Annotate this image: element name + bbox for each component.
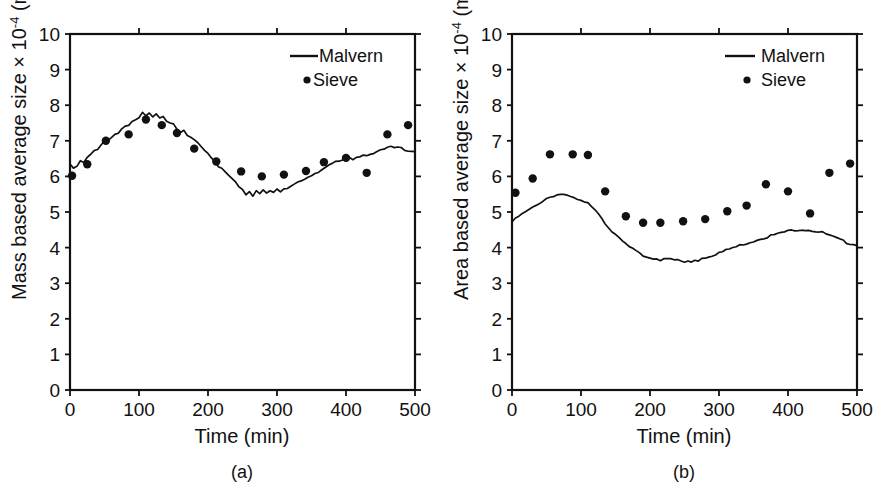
a-sieve-point: [173, 129, 181, 137]
b-sieve-point: [622, 212, 630, 220]
panel-b-x-axis-label: Time (min): [637, 425, 732, 447]
b-y-tick-label: 0: [491, 380, 502, 401]
a-sieve-point: [258, 172, 266, 180]
a-sieve-point: [124, 130, 132, 138]
a-y-tick-label: 3: [49, 273, 60, 294]
a-y-tick-label: 8: [49, 95, 60, 116]
b-sieve-point: [825, 169, 833, 177]
a-sieve-point: [158, 121, 166, 129]
a-sieve-point: [68, 171, 76, 179]
b-y-tick-label: 4: [491, 238, 502, 259]
b-y-tick-label: 5: [491, 202, 502, 223]
panel-a-ylabel-exponent: -4: [7, 17, 22, 29]
b-x-tick-label: 500: [841, 399, 873, 420]
panel-a-legend-dot-swatch: [303, 76, 310, 83]
a-x-tick-label: 300: [261, 399, 293, 420]
figure-container: Mass based average size × 10-4 (m4 m-3) …: [0, 0, 884, 495]
b-sieve-point: [762, 180, 770, 188]
chart-panel-b: Area based average size × 10-4 (m3 m-2) …: [442, 0, 884, 495]
b-sieve-point: [546, 150, 554, 158]
b-sieve-point: [529, 174, 537, 182]
b-sieve-point: [742, 201, 750, 209]
chart-panel-a: Mass based average size × 10-4 (m4 m-3) …: [0, 0, 442, 495]
b-sieve-point: [601, 187, 609, 195]
panel-b-ylabel-prefix: Area based average size × 10: [450, 34, 472, 300]
a-sieve-point: [102, 137, 110, 145]
panel-a-malvern-line: [70, 112, 415, 196]
panel-a-x-axis-label: Time (min): [195, 425, 290, 447]
panel-b-legend-malvern-label: Malvern: [761, 46, 825, 66]
b-x-tick-label: 0: [507, 399, 518, 420]
a-sieve-point: [237, 167, 245, 175]
b-sieve-point: [511, 189, 519, 197]
a-y-tick-label: 6: [49, 166, 60, 187]
b-sieve-point: [806, 209, 814, 217]
a-y-tick-label: 2: [49, 309, 60, 330]
a-y-tick-label: 10: [39, 24, 60, 45]
b-x-tick-label: 100: [565, 399, 597, 420]
panel-a-legend-sieve-label: Sieve: [313, 70, 358, 90]
b-sieve-point: [639, 218, 647, 226]
panel-a-plot-frame: [70, 34, 415, 390]
a-sieve-point: [212, 157, 220, 165]
b-sieve-point: [701, 215, 709, 223]
a-y-tick-label: 5: [49, 202, 60, 223]
b-sieve-point: [656, 218, 664, 226]
a-sieve-point: [404, 121, 412, 129]
a-sieve-point: [190, 144, 198, 152]
panel-b-legend: Malvern Sieve: [725, 46, 825, 90]
panel-b-ylabel-exponent: -4: [449, 22, 464, 34]
panel-a-tick-labels: 0123456789100100200300400500: [39, 24, 431, 420]
b-x-tick-label: 300: [703, 399, 735, 420]
a-y-tick-label: 4: [49, 238, 60, 259]
a-sieve-point: [342, 154, 350, 162]
a-sieve-point: [302, 167, 310, 175]
a-sieve-point: [280, 170, 288, 178]
panel-b-svg: Area based average size × 10-4 (m3 m-2) …: [442, 0, 884, 495]
a-x-tick-label: 100: [123, 399, 155, 420]
panel-b-ylabel-units-open: (m: [450, 0, 472, 22]
panel-a-ticks: [65, 28, 421, 396]
b-y-tick-label: 3: [491, 273, 502, 294]
a-sieve-point: [320, 158, 328, 166]
a-y-tick-label: 0: [49, 380, 60, 401]
b-y-tick-label: 7: [491, 131, 502, 152]
panel-a-legend: Malvern Sieve: [290, 46, 383, 90]
b-x-tick-label: 200: [634, 399, 666, 420]
b-y-tick-label: 6: [491, 166, 502, 187]
panel-a-ylabel-units-open: (m: [8, 0, 30, 17]
b-y-tick-label: 10: [481, 24, 502, 45]
b-sieve-point: [584, 151, 592, 159]
a-x-tick-label: 400: [330, 399, 362, 420]
b-y-tick-label: 8: [491, 95, 502, 116]
panel-a-svg: Mass based average size × 10-4 (m4 m-3) …: [0, 0, 442, 495]
b-x-tick-label: 400: [772, 399, 804, 420]
a-x-tick-label: 200: [192, 399, 224, 420]
a-sieve-point: [83, 160, 91, 168]
a-sieve-point: [142, 115, 150, 123]
panel-b-malvern-line: [512, 194, 857, 262]
panel-b-tick-labels: 0123456789100100200300400500: [481, 24, 873, 420]
a-y-tick-label: 1: [49, 344, 60, 365]
b-sieve-point: [569, 150, 577, 158]
b-sieve-point: [846, 159, 854, 167]
a-y-tick-label: 7: [49, 131, 60, 152]
panel-a-legend-malvern-label: Malvern: [319, 46, 383, 66]
a-sieve-point: [383, 130, 391, 138]
a-sieve-point: [363, 169, 371, 177]
a-x-tick-label: 0: [65, 399, 76, 420]
panel-a-sieve-markers: [68, 115, 412, 180]
panel-a-caption: (a): [231, 462, 253, 482]
panel-b-legend-dot-swatch: [743, 76, 750, 83]
panel-b-y-axis-label: Area based average size × 10-4 (m3 m-2): [449, 0, 472, 300]
panel-b-caption: (b): [673, 462, 695, 482]
a-x-tick-label: 500: [399, 399, 431, 420]
b-y-tick-label: 9: [491, 60, 502, 81]
a-y-tick-label: 9: [49, 60, 60, 81]
b-sieve-point: [679, 217, 687, 225]
panel-a-y-axis-label: Mass based average size × 10-4 (m4 m-3): [7, 0, 30, 300]
panel-b-legend-sieve-label: Sieve: [761, 70, 806, 90]
b-y-tick-label: 2: [491, 309, 502, 330]
b-sieve-point: [784, 187, 792, 195]
b-y-tick-label: 1: [491, 344, 502, 365]
